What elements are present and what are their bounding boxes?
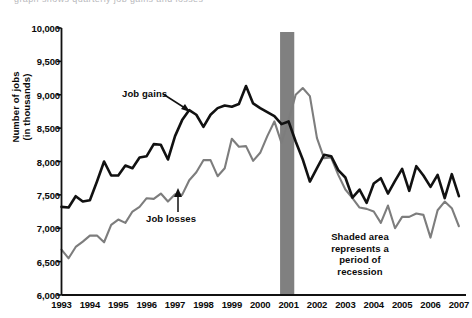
x-axis-tick-label: 2007 bbox=[439, 299, 472, 310]
job-losses-pointer-arrow bbox=[174, 188, 182, 212]
job-gains-line bbox=[62, 86, 459, 207]
recession-note-line-2: represents a bbox=[312, 243, 408, 255]
y-axis-tick-label: 9,500 bbox=[18, 56, 60, 67]
y-axis-tick-label: 7,500 bbox=[18, 190, 60, 201]
annotation-recession-note: Shaded area represents a period of reces… bbox=[312, 231, 408, 277]
annotation-job-losses: Job losses bbox=[146, 213, 196, 225]
recession-shaded-band bbox=[280, 32, 294, 295]
clipped-header-text-value: graph shows quarterly job gains and loss… bbox=[14, 0, 472, 4]
y-axis-tick-label: 8,000 bbox=[18, 157, 60, 168]
jobs-chart: graph shows quarterly job gains and loss… bbox=[0, 0, 472, 318]
y-axis-tick-label: 10,000 bbox=[18, 23, 60, 34]
recession-note-line-3: period of bbox=[312, 254, 408, 266]
recession-note-line-4: recession bbox=[312, 266, 408, 278]
y-axis-tick-label: 9,000 bbox=[18, 90, 60, 101]
y-axis-tick-labels: 6,0006,5007,0007,5008,0008,5009,0009,500… bbox=[14, 0, 60, 318]
clipped-header-text: graph shows quarterly job gains and loss… bbox=[0, 0, 472, 9]
y-axis-tick-label: 7,000 bbox=[18, 223, 60, 234]
annotation-job-gains: Job gains bbox=[122, 88, 167, 100]
y-axis-tick-label: 8,500 bbox=[18, 123, 60, 134]
recession-note-line-1: Shaded area bbox=[312, 231, 408, 243]
y-axis-tick-label: 6,500 bbox=[18, 257, 60, 268]
